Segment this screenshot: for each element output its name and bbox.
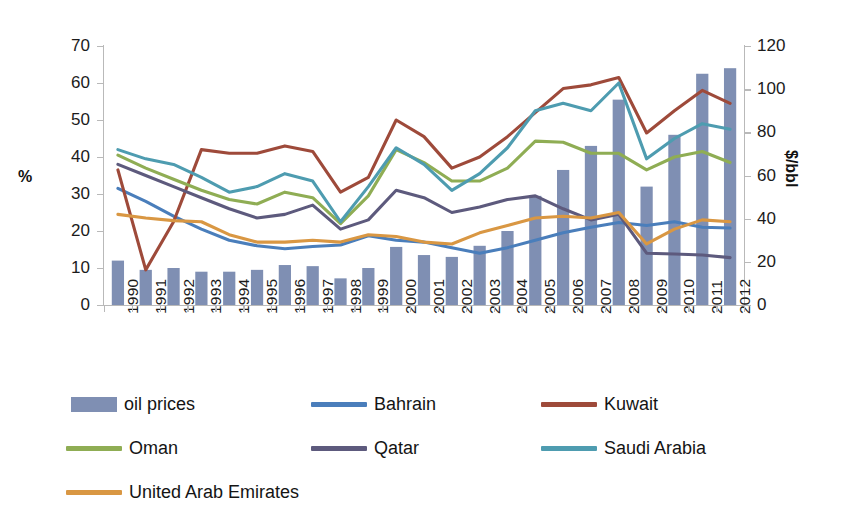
bar-oil-prices: [279, 265, 291, 305]
bar-oil-prices: [390, 247, 402, 305]
legend-item-united-arab-emirates[interactable]: United Arab Emirates: [66, 482, 311, 503]
bar-oil-prices: [223, 272, 235, 305]
x-axis-tick-mark: [438, 306, 439, 312]
y-axis-left-tick-mark: [97, 83, 103, 84]
bar-oil-prices: [167, 268, 179, 305]
x-axis-tick-mark: [494, 306, 495, 312]
y-axis-left-tick-label: 30: [30, 185, 90, 202]
legend-line-swatch-icon: [311, 446, 367, 451]
x-axis-tick-mark: [271, 306, 272, 312]
x-axis-tick-mark: [243, 306, 244, 312]
legend-line-swatch-icon: [541, 446, 597, 451]
legend-label: Oman: [129, 438, 178, 459]
y-axis-left-tick-label: 20: [30, 222, 90, 239]
y-axis-right-tick-mark: [745, 46, 751, 47]
y-axis-left-tick-label: 40: [30, 148, 90, 165]
y-axis-right-tick-mark: [745, 219, 751, 220]
y-axis-right-tick-mark: [745, 176, 751, 177]
bar-oil-prices: [362, 268, 374, 305]
x-axis-tick-mark: [688, 306, 689, 312]
y-axis-right-tick-label: 20: [757, 253, 817, 270]
bar-oil-prices: [195, 272, 207, 305]
x-axis-tick-mark: [327, 306, 328, 312]
x-axis-tick-mark: [104, 306, 105, 312]
y-axis-left-tick-mark: [97, 46, 103, 47]
y-axis-left-tick-mark: [97, 194, 103, 195]
legend-line-swatch-icon: [541, 402, 597, 407]
x-axis-tick-mark: [716, 306, 717, 312]
x-axis-tick-labels: 1990199119921993199419951996199719981999…: [104, 312, 744, 380]
y-axis-left-tick-mark: [97, 231, 103, 232]
x-axis-tick-mark: [466, 306, 467, 312]
y-axis-right-tick-label: 60: [757, 167, 817, 184]
bar-oil-prices: [696, 74, 708, 305]
x-axis-tick-mark: [605, 306, 606, 312]
x-axis-tick-mark: [132, 306, 133, 312]
chart-legend: oil pricesBahrainKuwaitOmanQatarSaudi Ar…: [66, 382, 786, 508]
y-axis-right-tick-mark: [745, 132, 751, 133]
bar-oil-prices: [557, 170, 569, 305]
x-axis-line: [103, 305, 746, 306]
x-axis-tick-mark: [382, 306, 383, 312]
legend-item-bahrain[interactable]: Bahrain: [311, 394, 541, 415]
x-axis-tick-mark: [410, 306, 411, 312]
bar-oil-prices: [334, 278, 346, 305]
y-axis-left-tick-mark: [97, 157, 103, 158]
legend-row: United Arab Emirates: [66, 470, 786, 508]
legend-item-oil-prices[interactable]: oil prices: [66, 394, 311, 415]
bar-oil-prices: [613, 100, 625, 305]
bar-oil-prices: [307, 266, 319, 305]
bar-oil-prices: [140, 270, 152, 305]
legend-label: Saudi Arabia: [604, 438, 706, 459]
x-axis-tick-mark: [744, 306, 745, 312]
x-axis-tick-mark: [661, 306, 662, 312]
y-axis-right-tick-label: 0: [757, 296, 817, 313]
legend-item-saudi-arabia[interactable]: Saudi Arabia: [541, 438, 786, 459]
legend-bar-swatch-icon: [71, 397, 117, 412]
y-axis-left-tick-label: 0: [30, 296, 90, 313]
x-axis-tick-mark: [577, 306, 578, 312]
y-axis-right-tick-label: 100: [757, 80, 817, 97]
legend-item-qatar[interactable]: Qatar: [311, 438, 541, 459]
x-axis-tick-mark: [521, 306, 522, 312]
plot-area: [104, 46, 744, 305]
legend-item-kuwait[interactable]: Kuwait: [541, 394, 786, 415]
legend-line-swatch-icon: [66, 490, 122, 495]
y-axis-right-tick-mark: [745, 89, 751, 90]
y-axis-right-tick-mark: [745, 262, 751, 263]
bar-oil-prices: [251, 270, 263, 305]
y-axis-right-tick-label: 40: [757, 210, 817, 227]
legend-item-oman[interactable]: Oman: [66, 438, 311, 459]
y-axis-left-tick-label: 70: [30, 37, 90, 54]
y-axis-left-tick-label: 60: [30, 74, 90, 91]
y-axis-right-tick-label: 120: [757, 37, 817, 54]
y-axis-left-tick-label: 10: [30, 259, 90, 276]
x-axis-tick-mark: [215, 306, 216, 312]
legend-label: Kuwait: [604, 394, 658, 415]
x-axis-tick-mark: [160, 306, 161, 312]
x-axis-tick-mark: [549, 306, 550, 312]
legend-label: Bahrain: [374, 394, 436, 415]
x-axis-tick-mark: [299, 306, 300, 312]
legend-label: Qatar: [374, 438, 419, 459]
y-axis-left-tick-mark: [97, 120, 103, 121]
x-axis-tick-mark: [633, 306, 634, 312]
x-axis-tick-mark: [187, 306, 188, 312]
bar-oil-prices: [501, 231, 513, 305]
y-axis-left-tick-mark: [97, 268, 103, 269]
bar-oil-prices: [112, 261, 124, 305]
legend-row: oil pricesBahrainKuwait: [66, 382, 786, 426]
legend-line-swatch-icon: [311, 402, 367, 407]
y-axis-left-title: %: [18, 168, 32, 186]
legend-label: United Arab Emirates: [129, 482, 299, 503]
bar-oil-prices: [418, 255, 430, 305]
y-axis-left-tick-label: 50: [30, 111, 90, 128]
bar-oil-prices: [529, 196, 541, 305]
y-axis-left-tick-mark: [97, 305, 103, 306]
bar-oil-prices: [446, 257, 458, 305]
y-axis-right-tick-label: 80: [757, 123, 817, 140]
x-axis-tick-mark: [354, 306, 355, 312]
legend-label: oil prices: [124, 394, 195, 415]
legend-row: OmanQatarSaudi Arabia: [66, 426, 786, 470]
legend-line-swatch-icon: [66, 446, 122, 451]
